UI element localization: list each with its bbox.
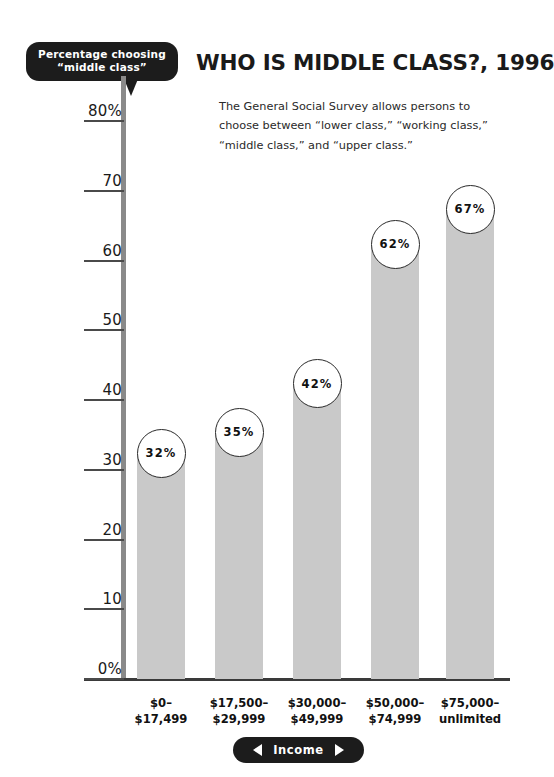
y-axis-tick bbox=[84, 190, 124, 192]
callout-pointer-icon bbox=[124, 79, 138, 96]
y-axis-tick-label: 0% bbox=[76, 660, 122, 678]
bar bbox=[371, 247, 419, 679]
y-axis-tick-label: 20 bbox=[76, 521, 122, 539]
y-axis-tick bbox=[84, 329, 124, 331]
y-axis-tick bbox=[84, 469, 124, 471]
y-axis-tick bbox=[84, 399, 124, 401]
bar bbox=[137, 456, 185, 679]
x-axis-category-line: $75,000– bbox=[422, 695, 518, 711]
chart-title: WHO IS MIDDLE CLASS?, 1996 bbox=[196, 50, 554, 75]
bar-value-bubble: 42% bbox=[293, 359, 342, 408]
bar-value-bubble: 32% bbox=[137, 429, 186, 478]
bar bbox=[293, 386, 341, 679]
y-axis-tick bbox=[84, 608, 124, 610]
left-arrow-icon bbox=[253, 744, 262, 756]
y-axis-tick-label: 10 bbox=[76, 590, 122, 608]
bar bbox=[446, 212, 494, 679]
y-axis-tick bbox=[84, 678, 124, 680]
y-axis-tick bbox=[84, 260, 124, 262]
y-axis-callout: Percentage choosing “middle class” bbox=[26, 42, 178, 81]
x-axis-label-text: Income bbox=[273, 743, 324, 757]
y-axis-tick-label: 80% bbox=[76, 102, 122, 120]
x-axis-category-label: $75,000–unlimited bbox=[422, 695, 518, 728]
bar-value-bubble: 62% bbox=[371, 220, 420, 269]
y-axis-tick-label: 70 bbox=[76, 172, 122, 190]
y-axis-tick-label: 40 bbox=[76, 381, 122, 399]
y-axis-tick bbox=[84, 539, 124, 541]
y-axis-tick-label: 50 bbox=[76, 311, 122, 329]
y-axis-tick-label: 60 bbox=[76, 242, 122, 260]
chart-subtitle: The General Social Survey allows persons… bbox=[219, 97, 509, 155]
y-axis-tick-label: 30 bbox=[76, 451, 122, 469]
y-axis-callout-line2: “middle class” bbox=[38, 61, 166, 74]
bar bbox=[215, 435, 263, 679]
right-arrow-icon bbox=[335, 744, 344, 756]
x-axis-label-pill: Income bbox=[233, 737, 364, 763]
y-axis-callout-line1: Percentage choosing bbox=[38, 48, 166, 61]
y-axis-tick bbox=[84, 120, 124, 122]
bar-value-bubble: 35% bbox=[215, 408, 264, 457]
bar-value-bubble: 67% bbox=[446, 185, 495, 234]
x-axis-category-line: unlimited bbox=[422, 711, 518, 727]
